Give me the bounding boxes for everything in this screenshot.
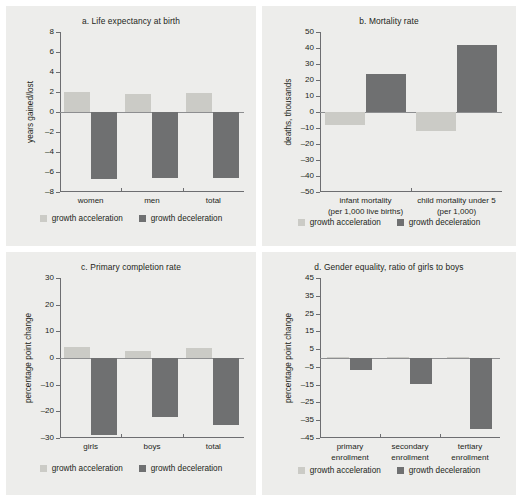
panel-b-y-tick <box>316 48 320 49</box>
panel-c-y-tick-label: 0 <box>50 354 54 362</box>
panel-d-y-tick-label: –35 <box>301 416 314 424</box>
panel-b-y-tick-label: –40 <box>301 172 314 180</box>
panel-b-y-tick-label: 30 <box>305 60 314 68</box>
panel-a-plot-area: years gained/lost 86420–2–4–6–8 <box>60 32 244 192</box>
legend-label-acceleration: growth acceleration <box>52 464 123 473</box>
panel-b-category-label: infant mortality(per 1,000 live births) <box>320 196 411 217</box>
panel-b-y-tick-label: –10 <box>301 124 314 132</box>
legend-swatch-deceleration-icon <box>139 215 146 222</box>
panel-b-title: b. Mortality rate <box>262 16 516 26</box>
category-label-line1: boys <box>144 442 161 451</box>
panel-b-y-tick <box>316 32 320 33</box>
panel-d-y-tick-label: 5 <box>310 345 314 353</box>
legend-item-acceleration: growth acceleration <box>40 464 123 473</box>
panel-a-y-tick-label: –8 <box>45 188 54 196</box>
panel-c-y-tick <box>56 331 60 332</box>
panel-b-y-axis-label: deaths, thousands <box>284 32 293 192</box>
panel-a-y-tick-label: 6 <box>50 48 54 56</box>
category-label-line1: infant mortality <box>339 196 391 205</box>
panel-d-x-tick <box>380 434 381 438</box>
legend-label-acceleration: growth acceleration <box>52 214 123 223</box>
panel-a-y-tick-label: 4 <box>50 68 54 76</box>
panel-b-plot-area: deaths, thousands 50403020100–10–20–30–4… <box>320 32 502 192</box>
panel-d-category-label: tertiaryenrollment <box>440 442 500 463</box>
panel-c-y-tick-label: 30 <box>45 274 54 282</box>
panel-c-bar-acceleration <box>64 347 90 358</box>
panel-d-x-tick <box>440 434 441 438</box>
category-label-line1: women <box>78 196 104 205</box>
panel-d-category-label: secondaryenrollment <box>380 442 440 463</box>
legend-label-deceleration: growth deceleration <box>151 464 222 473</box>
panel-a-bar-acceleration <box>64 92 90 113</box>
panel-c-y-tick-label: 20 <box>45 301 54 309</box>
panel-d-y-tick <box>316 402 320 403</box>
panel-d-y-tick-label: –25 <box>301 398 314 406</box>
panel-d-y-tick <box>316 331 320 332</box>
panel-b-category-label: child mortality under 5(per 1,000) <box>411 196 502 217</box>
category-label-line1: primary <box>337 442 364 451</box>
panel-b-y-tick-label: 40 <box>305 44 314 52</box>
panel-c-x-axis <box>60 437 244 438</box>
panel-d-y-tick <box>316 278 320 279</box>
category-label-line1: child mortality under 5 <box>417 196 495 205</box>
panel-a-y-tick <box>56 52 60 53</box>
panel-b-mortality-rate: b. Mortality rate deaths, thousands 5040… <box>262 6 516 246</box>
panel-d-y-tick-label: 25 <box>305 310 314 318</box>
category-label-line2: (per 1,000 live births) <box>320 207 411 218</box>
panel-c-y-tick-label: –30 <box>41 434 54 442</box>
legend-item-deceleration: growth deceleration <box>397 466 480 475</box>
panel-d-y-tick-label: –45 <box>301 434 314 442</box>
panel-b-legend: growth acceleration growth deceleration <box>262 218 516 227</box>
panel-a-title: a. Life expectancy at birth <box>6 16 256 26</box>
panel-d-y-tick <box>316 349 320 350</box>
panel-a-y-tick <box>56 72 60 73</box>
panel-a-y-tick <box>56 172 60 173</box>
panel-d-y-tick <box>316 296 320 297</box>
panel-d-legend: growth acceleration growth deceleration <box>262 466 516 475</box>
legend-item-deceleration: growth deceleration <box>397 218 480 227</box>
panel-b-y-tick <box>316 96 320 97</box>
panel-a-y-tick-label: 0 <box>50 108 54 116</box>
panel-b-bar-acceleration <box>416 112 456 131</box>
legend-label-deceleration: growth deceleration <box>409 218 480 227</box>
panel-a-bar-acceleration <box>125 94 151 112</box>
panel-b-y-tick-label: 10 <box>305 92 314 100</box>
panel-b-bar-acceleration <box>325 112 365 125</box>
panel-a-y-tick <box>56 132 60 133</box>
panel-a-y-tick <box>56 192 60 193</box>
panel-c-plot-area: percentage point change 3020100–10–20–30 <box>60 278 244 438</box>
legend-item-deceleration: growth deceleration <box>139 464 222 473</box>
panel-d-bar-deceleration <box>350 358 372 370</box>
panel-c-y-tick-label: –20 <box>41 407 54 415</box>
panel-c-y-tick-label: –10 <box>41 381 54 389</box>
panel-d-bar-deceleration <box>470 358 492 429</box>
category-label-line1: men <box>144 196 160 205</box>
panel-c-category-label: boys <box>121 442 182 453</box>
legend-item-acceleration: growth acceleration <box>298 218 381 227</box>
figure-four-panel-bar-charts: a. Life expectancy at birth years gained… <box>0 0 522 501</box>
category-label-line2: enrollment <box>320 453 380 464</box>
panel-b-y-tick <box>316 160 320 161</box>
panel-d-y-tick-label: 15 <box>305 327 314 335</box>
panel-b-bar-deceleration <box>457 45 497 112</box>
legend-label-deceleration: growth deceleration <box>151 214 222 223</box>
panel-a-y-tick-label: –6 <box>45 168 54 176</box>
legend-item-deceleration: growth deceleration <box>139 214 222 223</box>
category-label-line2: enrollment <box>440 453 500 464</box>
panel-b-y-tick-label: –30 <box>301 156 314 164</box>
panel-a-y-tick-label: –2 <box>45 128 54 136</box>
panel-d-category-label: primaryenrollment <box>320 442 380 463</box>
panel-c-y-axis-label: percentage point change <box>24 278 33 438</box>
panel-d-y-axis-label: percentage point change <box>284 278 293 438</box>
panel-a-y-tick-label: –4 <box>45 148 54 156</box>
panel-c-category-label: girls <box>60 442 121 453</box>
panel-c-title: c. Primary completion rate <box>6 262 256 272</box>
panel-a-category-label: women <box>60 196 121 207</box>
legend-item-acceleration: growth acceleration <box>298 466 381 475</box>
panel-c-bar-acceleration <box>186 348 212 358</box>
legend-swatch-deceleration-icon <box>397 219 404 226</box>
panel-c-y-tick <box>56 411 60 412</box>
legend-swatch-acceleration-icon <box>40 465 47 472</box>
category-label-line2: (per 1,000) <box>411 207 502 218</box>
category-label-line1: total <box>206 442 221 451</box>
